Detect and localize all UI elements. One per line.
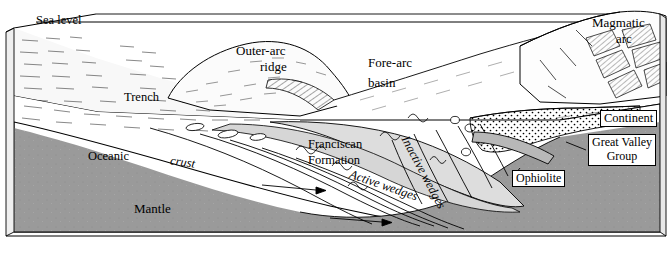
label-sea-level: Sea level <box>36 14 81 27</box>
label-trench: Trench <box>124 91 159 104</box>
label-outer-arc-ridge-line1: Outer-arc <box>236 44 286 58</box>
label-great-valley-group: Great Valley Group <box>588 134 656 166</box>
block-diagram <box>0 0 669 262</box>
block-right-side-face <box>660 14 666 236</box>
label-oceanic: Oceanic <box>88 150 129 163</box>
label-mantle: Mantle <box>134 202 171 216</box>
label-magmatic-arc-line2: arc <box>616 32 632 46</box>
block-bottom-edge <box>6 232 666 236</box>
block-left-side-face <box>6 28 14 236</box>
label-fore-arc-basin-line1: Fore-arc <box>368 56 412 70</box>
label-continent: Continent <box>600 110 657 127</box>
figure-container: Sea level Outer-arc ridge Fore-arc basin… <box>0 0 669 262</box>
label-franciscan-line1: Franciscan <box>308 138 362 151</box>
label-magmatic-arc-line1: Magmatic <box>592 16 645 30</box>
label-outer-arc-ridge-line2: ridge <box>260 60 287 74</box>
label-great-valley-line1: Great Valley <box>592 135 652 149</box>
label-franciscan-line2: Formation <box>308 154 360 167</box>
label-fore-arc-basin-line2: basin <box>368 76 395 90</box>
label-great-valley-line2: Group <box>607 149 638 163</box>
label-ophiolite: Ophiolite <box>512 170 565 187</box>
